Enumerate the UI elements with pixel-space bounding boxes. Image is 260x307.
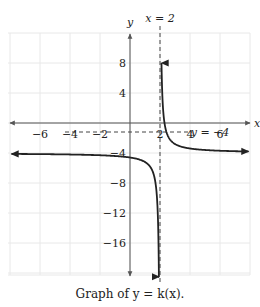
graph-caption: Graph of y = k(x). — [0, 287, 260, 301]
curve-left-branch — [12, 154, 160, 277]
y-tick-label: −12 — [103, 207, 126, 220]
graph-canvas: x = 2y = −4 −6−4−224684−4−8−12−16 xy — [0, 0, 260, 307]
x-axis-label: x — [254, 117, 260, 130]
y-tick-label: −16 — [103, 237, 126, 250]
x-tick-label: 6 — [217, 128, 224, 141]
asymptotes: x = 2y = −4 — [65, 12, 229, 285]
y-tick-label: −8 — [110, 177, 126, 190]
y-axis-label: y — [126, 16, 134, 29]
y-tick-label: −4 — [110, 147, 126, 160]
x-tick-label: −6 — [32, 128, 48, 141]
x-tick-label: 4 — [187, 128, 194, 141]
y-tick-label: 4 — [119, 87, 126, 100]
y-tick-label: 8 — [119, 57, 126, 70]
vertical-asymptote-label: x = 2 — [145, 12, 174, 25]
x-tick-label: −4 — [62, 128, 78, 141]
x-tick-label: −2 — [92, 128, 108, 141]
x-tick-label: 2 — [157, 128, 164, 141]
